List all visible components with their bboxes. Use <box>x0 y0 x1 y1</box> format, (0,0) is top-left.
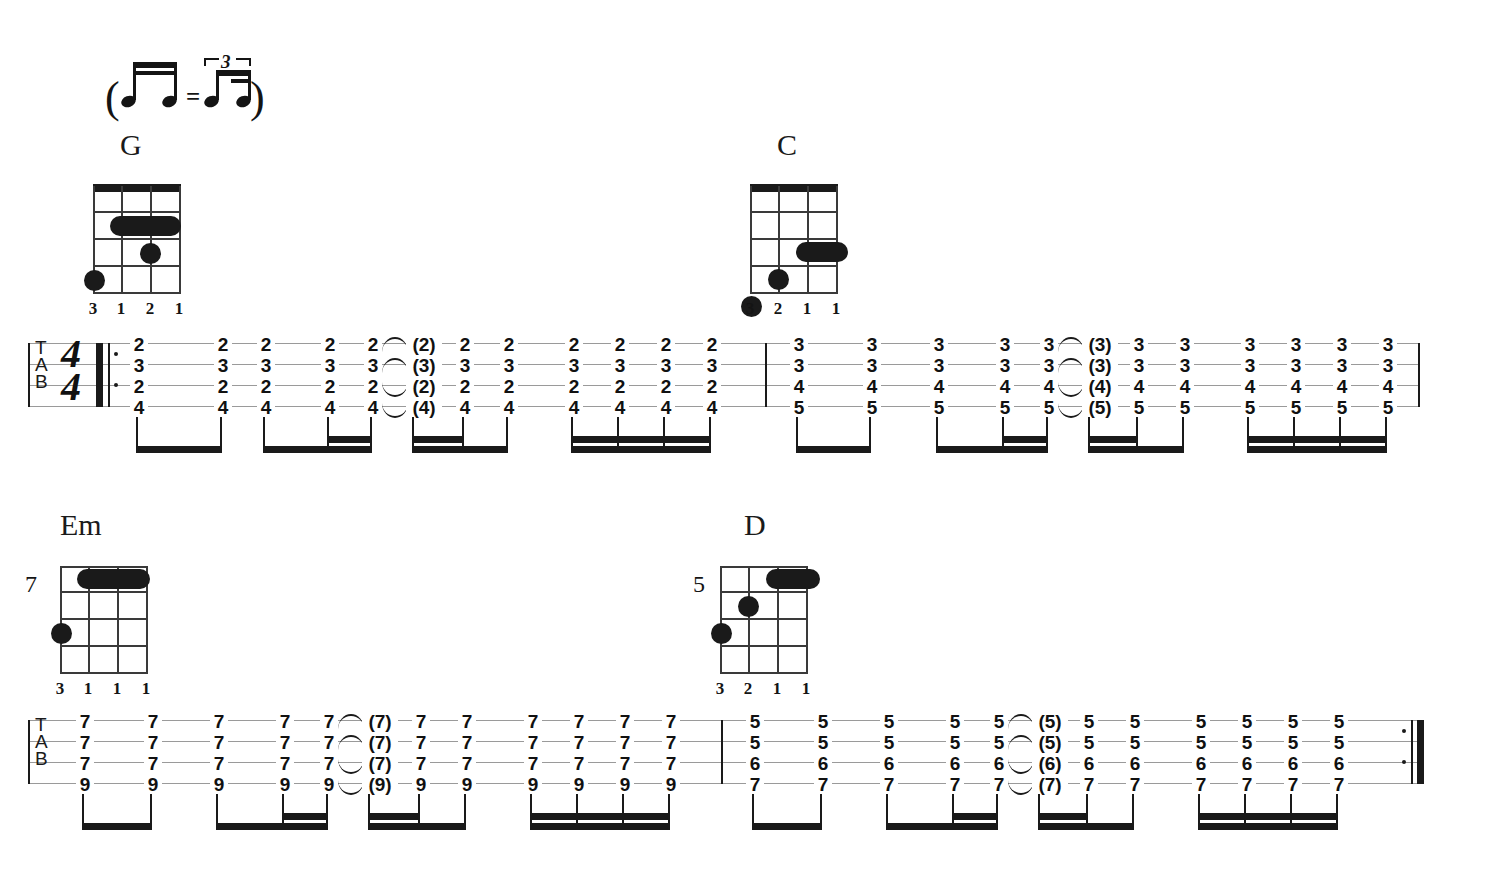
rhythm-beam <box>1247 446 1387 453</box>
fret-number: 4 <box>321 398 339 417</box>
fret-line <box>750 265 838 267</box>
fret-number: 4 <box>565 398 583 417</box>
fret-line <box>750 238 838 240</box>
fret-number: 3 <box>500 356 518 375</box>
rhythm-beam <box>368 823 466 830</box>
tie <box>338 780 364 795</box>
fret-number: 5 <box>946 712 964 731</box>
fret-number: 7 <box>662 712 680 731</box>
fret-number: 7 <box>524 754 542 773</box>
fret-number: 6 <box>1126 754 1144 773</box>
chord-diagram-c: C 3 2 1 1 <box>750 130 950 325</box>
fret-number: 4 <box>364 398 382 417</box>
string-line <box>836 186 838 294</box>
fret-number: 3 <box>456 356 474 375</box>
fret-number: 2 <box>456 335 474 354</box>
fret-number: (2) <box>406 335 442 354</box>
fret-number: 7 <box>412 754 430 773</box>
rhythm-beam <box>412 436 464 443</box>
fret-line <box>93 238 181 240</box>
fret-number: (3) <box>1082 356 1118 375</box>
finger-dot <box>768 269 789 290</box>
beam <box>133 71 177 75</box>
fret-number: 6 <box>880 754 898 773</box>
fret-line <box>720 566 808 568</box>
fret-number: 2 <box>364 335 382 354</box>
fret-number: 3 <box>930 356 948 375</box>
measure-barline <box>765 343 767 407</box>
rhythm-beam <box>796 446 871 453</box>
fret-line <box>750 292 838 294</box>
fret-number: 7 <box>276 754 294 773</box>
tab-staff-2: T A B 7 7 7 9 7 7 7 9 7 7 7 9 7 7 7 9 7 … <box>28 712 1423 842</box>
tie <box>1058 337 1084 352</box>
tab-staff-1: T A B 4 4 2 3 2 4 2 3 2 4 2 3 2 4 2 3 2 … <box>28 335 1423 465</box>
end-repeat-thin-line <box>1411 720 1413 784</box>
fret-number: 5 <box>1287 398 1305 417</box>
tab-clef: T A B <box>35 339 48 390</box>
fret-number: 2 <box>456 377 474 396</box>
rhythm-beam <box>1198 823 1338 830</box>
rhythm-beam <box>327 436 372 443</box>
fret-number: 7 <box>210 733 228 752</box>
fret-number: 4 <box>1176 377 1194 396</box>
fret-number: 7 <box>616 754 634 773</box>
fret-number: 4 <box>930 377 948 396</box>
time-signature-denominator: 4 <box>61 370 81 404</box>
fret-number: 6 <box>1238 754 1256 773</box>
fret-number: 3 <box>257 356 275 375</box>
fret-number: 7 <box>880 775 898 794</box>
fret-number: 3 <box>1287 356 1305 375</box>
string-line <box>60 566 62 674</box>
fret-number: 3 <box>930 335 948 354</box>
fret-number: 7 <box>1238 775 1256 794</box>
fretboard-grid <box>93 186 181 294</box>
fret-number: 5 <box>1080 712 1098 731</box>
fret-number: 7 <box>570 733 588 752</box>
system-barline-left <box>28 720 30 784</box>
tab-string-line <box>28 364 1420 365</box>
rhythm-beam <box>82 823 152 830</box>
fret-number: 7 <box>1080 775 1098 794</box>
tab-string-line <box>28 741 1420 742</box>
chord-diagram-d: D 5 3 2 1 1 <box>720 510 920 705</box>
fret-number: 9 <box>570 775 588 794</box>
fret-number: 7 <box>1330 775 1348 794</box>
chord-name-g: G <box>120 130 142 160</box>
fret-number: 3 <box>863 356 881 375</box>
fret-number: 4 <box>1241 377 1259 396</box>
fret-line <box>60 566 148 568</box>
finger-number: 2 <box>740 680 756 697</box>
fret-number: 2 <box>130 335 148 354</box>
fret-number: 2 <box>130 377 148 396</box>
start-repeat-dot <box>114 352 118 356</box>
fret-number: 4 <box>257 398 275 417</box>
fret-number: 3 <box>996 335 1014 354</box>
string-line <box>807 186 809 294</box>
fret-number: 3 <box>1287 335 1305 354</box>
tab-clef: T A B <box>35 716 48 767</box>
legend-open-paren: ( <box>105 76 120 120</box>
fret-number: 5 <box>1330 712 1348 731</box>
fret-number: 9 <box>210 775 228 794</box>
nut <box>750 184 838 192</box>
fret-number: 5 <box>946 733 964 752</box>
rhythm-beam <box>412 446 508 453</box>
fret-number: 7 <box>76 754 94 773</box>
tab-string-line <box>28 762 1420 763</box>
fretboard-grid <box>750 186 838 294</box>
tie <box>382 403 408 418</box>
finger-number: 3 <box>85 300 101 317</box>
fret-number: 2 <box>214 377 232 396</box>
fret-number: 4 <box>456 398 474 417</box>
fret-number: 3 <box>863 335 881 354</box>
fret-number: 5 <box>990 712 1008 731</box>
rhythm-beam <box>1247 436 1387 443</box>
fret-number: 9 <box>524 775 542 794</box>
fret-number: 2 <box>703 377 721 396</box>
fret-number: 7 <box>276 712 294 731</box>
fret-number: 7 <box>144 754 162 773</box>
fret-number: 5 <box>930 398 948 417</box>
fret-number: 3 <box>364 356 382 375</box>
tie <box>1058 358 1084 373</box>
